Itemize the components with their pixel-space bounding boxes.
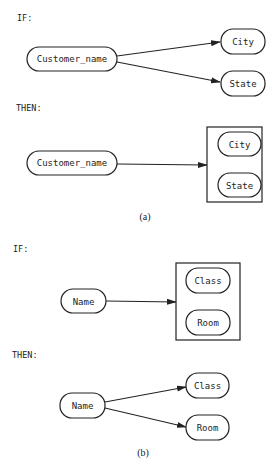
node-label: State [226, 181, 253, 191]
fig-b-caption: (b) [137, 447, 149, 459]
fig-a-then-city-node: City [218, 132, 261, 156]
node-label: Customer_name [37, 54, 107, 64]
node-label: City [232, 37, 254, 47]
fig-b-then-label: THEN: [12, 350, 38, 360]
fig-b-if-class-node: Class [186, 268, 230, 293]
fig-b-if-room-node: Room [186, 310, 230, 335]
fig-a-caption: (a) [139, 211, 150, 223]
fig-a-then-edge [117, 164, 207, 165]
fig-a-then-state-node: State [218, 173, 261, 197]
fig-a-if-edge-state [117, 62, 220, 82]
node-label: Room [197, 318, 219, 328]
fig-b-then-edge-room [105, 408, 186, 427]
fig-b-then-class-node: Class [186, 373, 229, 398]
fig-a-then-source-node: Customer_name [27, 151, 117, 175]
fig-b-if-edge [106, 301, 176, 302]
node-label: Class [194, 381, 221, 391]
fig-b-if-source-node: Name [61, 289, 106, 313]
fig-a-if-city-node: City [221, 29, 265, 54]
node-label: Room [197, 423, 219, 433]
fig-a-if-state-node: State [221, 71, 265, 96]
fig-b-then-room-node: Room [186, 415, 229, 440]
fig-b-then-edge-class [105, 387, 186, 402]
fig-a-then-label: THEN: [16, 103, 42, 113]
node-label: Name [72, 401, 94, 411]
fig-b-if-label: IF: [13, 244, 28, 254]
node-label: Class [194, 276, 221, 286]
node-label: City [229, 140, 251, 150]
node-label: Name [73, 297, 95, 307]
node-label: State [229, 79, 256, 89]
fig-b-then-source-node: Name [60, 393, 105, 418]
fig-a-if-source-node: Customer_name [27, 47, 117, 71]
fig-a-if-label: IF: [17, 13, 32, 23]
fig-a-if-edge-city [117, 42, 220, 56]
node-label: Customer_name [37, 158, 107, 168]
